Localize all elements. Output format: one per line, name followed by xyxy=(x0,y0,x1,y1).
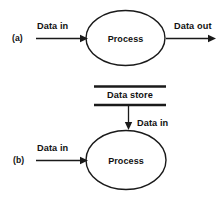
part-b-group: Data store Data in (b) Data in Process xyxy=(13,87,169,190)
dfd-canvas: (a) Data in Process Data out Data store xyxy=(0,0,221,202)
part-a-input-flow-label: Data in xyxy=(37,21,69,31)
part-b-store-flow-arrow-head xyxy=(125,122,132,130)
part-a-output-flow-label: Data out xyxy=(174,21,212,31)
part-a-output-arrow xyxy=(166,35,216,42)
data-store-label: Data store xyxy=(107,90,153,100)
part-b-process-label: Process xyxy=(108,156,144,166)
part-a-group: (a) Data in Process Data out xyxy=(12,11,216,66)
part-a-process-label: Process xyxy=(108,34,144,44)
part-a-input-arrow xyxy=(36,35,88,42)
part-b-data-store: Data store xyxy=(94,87,166,106)
part-b-input-arrow xyxy=(36,157,88,164)
part-b-input-flow-label: Data in xyxy=(37,143,69,153)
part-a-output-arrow-head xyxy=(208,35,216,42)
part-b-store-flow-arrow xyxy=(125,106,132,130)
part-b-label: (b) xyxy=(13,155,24,165)
part-a-label: (a) xyxy=(12,33,23,43)
dfd-figure: (a) Data in Process Data out Data store xyxy=(0,0,221,202)
part-b-store-flow-label: Data in xyxy=(137,118,169,128)
